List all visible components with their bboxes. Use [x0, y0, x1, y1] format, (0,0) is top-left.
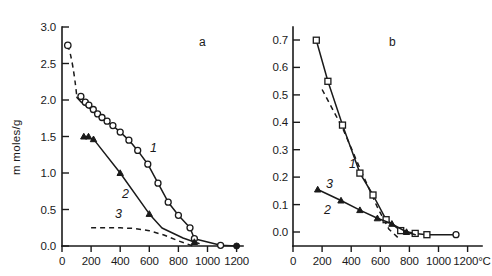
- panel-a-curve-label-2: 2: [121, 187, 129, 201]
- panel-a-xtick-label-3: 600: [140, 255, 159, 267]
- panel-a-y-ticks: [62, 27, 69, 246]
- panel-a-xtick-label-6: 1200: [224, 255, 249, 267]
- panel-b-curve-1: [316, 40, 456, 235]
- panel-a-ytick-label-6: 3.0: [41, 21, 56, 33]
- panel-b-y-ticks: [293, 40, 300, 232]
- panel-a-curve-label-1: 1: [150, 141, 157, 155]
- figure-svg: 3.0 2.5 2.0 1.5 1.0 0.5 0.0 m moles/g 0 …: [0, 0, 492, 276]
- panel-b-ytick-label-5: 0.5: [273, 89, 288, 101]
- panel-a-label: a: [199, 35, 206, 49]
- panel-b-x-ticks: [293, 246, 468, 252]
- panel-b-curve-label-2: 2: [323, 203, 331, 217]
- panel-a-curve-label-3: 3: [115, 207, 122, 221]
- panel-b-curve-1-markers: [313, 37, 459, 238]
- panel-b-curve-2: [318, 190, 416, 235]
- panel-a-xtick-label-2: 400: [111, 255, 130, 267]
- panel-a-ytick-label-3: 1.5: [41, 131, 56, 143]
- panel-a-xtick-label-5: 1000: [195, 255, 220, 267]
- panel-a-curve-3: [91, 228, 193, 246]
- panel-b-ytick-label-7: 0.7: [273, 34, 288, 46]
- panel-a-ytick-label-0: 0.0: [41, 240, 56, 252]
- panel-b-xtick-label-0: 0: [290, 255, 296, 267]
- panel-b-curve-label-3: 3: [326, 177, 333, 191]
- panel-a-x-ticks: [62, 246, 237, 252]
- panel-b-ytick-label-0: 0.0: [273, 226, 288, 238]
- panel-a-curve-1-head: [68, 45, 77, 97]
- panel-a-ytick-label-2: 1.0: [41, 167, 56, 179]
- panel-b-curve-label-1: 1: [349, 157, 356, 171]
- panel-b-label: b: [389, 35, 396, 49]
- panel-b-xtick-label-1: 200: [313, 255, 332, 267]
- panel-b: 0.7 0.6 0.5 0.4 0.3 0.2 0.1 0.0 0 200 40…: [273, 27, 491, 267]
- panel-b-ytick-label-3: 0.3: [273, 144, 288, 156]
- panel-b-xtick-label-5: 1000: [426, 255, 451, 267]
- panel-b-ytick-label-6: 0.6: [273, 61, 288, 73]
- panel-b-xtick-label-2: 400: [342, 255, 361, 267]
- panel-a: 3.0 2.5 2.0 1.5 1.0 0.5 0.0 m moles/g 0 …: [10, 21, 249, 267]
- panel-b-xtick-label-4: 800: [400, 255, 419, 267]
- panel-b-xaxis-unit-label: 1200°C: [453, 255, 490, 267]
- panel-a-xtick-label-1: 200: [82, 255, 101, 267]
- panel-a-ytick-label-1: 0.5: [41, 204, 56, 216]
- panel-b-curve-3: [322, 90, 398, 238]
- panel-b-xtick-label-3: 600: [371, 255, 390, 267]
- y-axis-title: m moles/g: [10, 119, 22, 175]
- panel-a-ytick-label-4: 2.0: [41, 94, 56, 106]
- panel-a-ytick-label-5: 2.5: [41, 58, 56, 70]
- panel-b-ytick-label-4: 0.4: [273, 116, 289, 128]
- panel-b-ytick-label-2: 0.2: [273, 171, 288, 183]
- panel-a-xtick-label-0: 0: [59, 255, 65, 267]
- figure-root: 3.0 2.5 2.0 1.5 1.0 0.5 0.0 m moles/g 0 …: [0, 0, 492, 276]
- panel-b-ytick-label-1: 0.1: [273, 199, 288, 211]
- panel-a-xtick-label-4: 800: [169, 255, 188, 267]
